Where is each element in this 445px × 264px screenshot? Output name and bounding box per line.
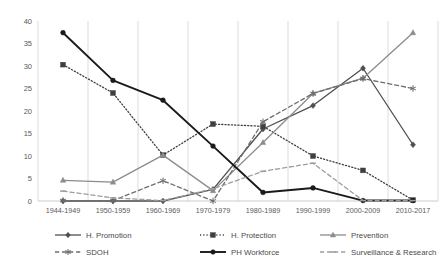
legend-label: H. Protection: [231, 231, 276, 240]
data-point-marker: [311, 154, 316, 159]
x-axis-tick-label: 1944-1949: [46, 206, 80, 215]
legend-item-surveillance-research[interactable]: Surveillance & Research: [320, 248, 436, 257]
data-point-marker: [61, 62, 66, 67]
legend-label: Surveillance & Research: [351, 248, 436, 257]
y-axis-tick-label: 40: [24, 17, 32, 26]
y-axis-tick-label: 25: [24, 84, 32, 93]
y-axis-tick-label: 30: [24, 62, 32, 71]
x-axis: 1944-19491950-19591960-19691970-19791980…: [46, 206, 430, 215]
y-axis-tick-label: 5: [28, 174, 32, 183]
data-point-marker: [211, 122, 216, 127]
x-axis-tick-label: 1990-1999: [296, 206, 330, 215]
x-axis-tick-label: 1950-1959: [96, 206, 130, 215]
legend-item-h-protection[interactable]: H. Protection: [200, 231, 276, 240]
x-axis-tick-label: 2010-2017: [396, 206, 430, 215]
y-axis-tick-label: 20: [24, 107, 32, 116]
data-point-marker: [161, 98, 166, 103]
data-point-marker: [61, 30, 66, 35]
data-point-marker: [66, 232, 71, 238]
legend-label: SDOH: [86, 248, 109, 257]
x-axis-tick-label: 1980-1989: [246, 206, 280, 215]
y-axis-tick-label: 15: [24, 129, 32, 138]
y-axis-tick-label: 35: [24, 39, 32, 48]
data-point-marker: [361, 168, 366, 173]
legend-label: PH Workforce: [231, 248, 279, 257]
x-axis-tick-label: 1970-1979: [196, 206, 230, 215]
legend-item-prevention[interactable]: Prevention: [320, 231, 388, 240]
data-point-marker: [261, 190, 266, 195]
chart-legend: H. PromotionH. ProtectionPreventionSDOHP…: [55, 231, 436, 257]
y-axis-tick-label: 0: [28, 197, 32, 206]
legend-item-sdoh[interactable]: SDOH: [55, 248, 109, 257]
y-axis-tick-label: 10: [24, 152, 32, 161]
data-point-marker: [111, 91, 116, 96]
legend-label: Prevention: [351, 231, 388, 240]
data-point-marker: [211, 144, 216, 149]
legend-item-h-promotion[interactable]: H. Promotion: [55, 231, 132, 240]
line-chart-figure: 0510152025303540 1944-19491950-19591960-…: [0, 0, 445, 264]
x-axis-tick-label: 2000-2009: [346, 206, 380, 215]
chart-canvas: 0510152025303540 1944-19491950-19591960-…: [0, 0, 445, 264]
data-point-marker: [211, 250, 216, 255]
data-point-marker: [311, 186, 316, 191]
legend-label: H. Promotion: [86, 231, 132, 240]
x-axis-tick-label: 1960-1969: [146, 206, 180, 215]
data-point-marker: [111, 78, 116, 83]
data-point-marker: [211, 233, 216, 238]
legend-item-ph-workforce[interactable]: PH Workforce: [200, 248, 279, 257]
